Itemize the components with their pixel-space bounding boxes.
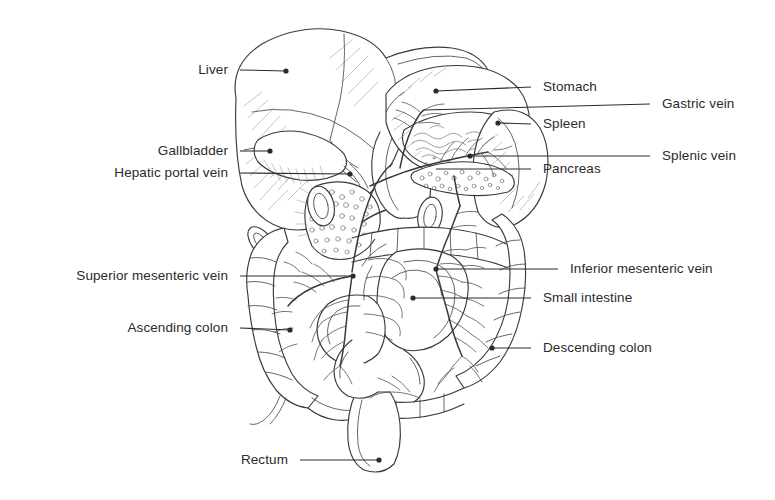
label-small-intestine: Small intestine bbox=[543, 291, 632, 305]
anatomy-illustration: .o{fill:#ffffff;stroke:#3a3a3a;stroke-wi… bbox=[0, 0, 775, 500]
label-gastric-vein: Gastric vein bbox=[662, 97, 734, 111]
label-pancreas: Pancreas bbox=[543, 162, 601, 176]
label-descending-colon: Descending colon bbox=[543, 341, 652, 355]
small-intestine-organ bbox=[317, 244, 468, 402]
label-rectum: Rectum bbox=[241, 453, 288, 467]
label-superior-mesenteric-vein: Superior mesenteric vein bbox=[76, 269, 228, 283]
label-ascending-colon: Ascending colon bbox=[127, 321, 228, 335]
diagram-page: .o{fill:#ffffff;stroke:#3a3a3a;stroke-wi… bbox=[0, 0, 775, 500]
label-gallbladder: Gallbladder bbox=[158, 144, 228, 158]
label-splenic-vein: Splenic vein bbox=[662, 149, 736, 163]
label-spleen: Spleen bbox=[543, 117, 586, 131]
label-inferior-mesenteric-vein: Inferior mesenteric vein bbox=[570, 262, 713, 276]
label-stomach: Stomach bbox=[543, 80, 597, 94]
label-liver: Liver bbox=[198, 63, 228, 77]
large-intestine bbox=[247, 214, 526, 472]
label-hepatic-portal-vein: Hepatic portal vein bbox=[114, 166, 228, 180]
